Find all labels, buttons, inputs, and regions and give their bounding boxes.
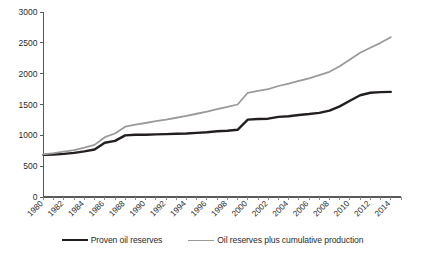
x-tick-label-group: 1990 <box>128 199 148 219</box>
x-tick-label-group: 2010 <box>332 199 352 219</box>
x-tick-label-group: 2004 <box>271 199 291 219</box>
x-tick-label-group: 1984 <box>67 199 87 219</box>
x-tick-label: 1996 <box>189 199 209 219</box>
series-line-1 <box>44 37 391 154</box>
line-chart-plot: 0500100015002000250030001980198219841986… <box>0 0 425 254</box>
chart-legend: Proven oil reservesOil reserves plus cum… <box>0 229 425 251</box>
y-tick-label: 1000 <box>19 130 38 140</box>
x-tick-label: 2010 <box>332 199 352 219</box>
x-tick-label-group: 2006 <box>291 199 311 219</box>
legend-label: Oil reserves plus cumulative production <box>217 235 363 245</box>
x-tick-label: 1984 <box>67 199 87 219</box>
x-tick-label: 1982 <box>46 199 66 219</box>
x-tick-label-group: 2012 <box>353 199 373 219</box>
x-tick-label: 1980 <box>26 199 46 219</box>
x-tick-label-group: 2014 <box>373 199 393 219</box>
x-tick-label: 2002 <box>250 199 270 219</box>
x-tick-label: 2014 <box>373 199 393 219</box>
x-tick-label-group: 1992 <box>148 199 168 219</box>
x-tick-label: 1998 <box>210 199 230 219</box>
x-tick-label: 1990 <box>128 199 148 219</box>
x-tick-label-group: 1998 <box>210 199 230 219</box>
x-tick-label: 1992 <box>148 199 168 219</box>
x-tick-label: 2000 <box>230 199 250 219</box>
x-tick-label: 2012 <box>353 199 373 219</box>
x-tick-label-group: 1982 <box>46 199 66 219</box>
series-line-0 <box>44 92 391 155</box>
legend-entry-0[interactable]: Proven oil reserves <box>62 235 163 245</box>
x-tick-label-group: 2000 <box>230 199 250 219</box>
legend-label: Proven oil reserves <box>91 235 163 245</box>
legend-entry-1[interactable]: Oil reserves plus cumulative production <box>188 235 363 245</box>
x-tick-label: 2006 <box>291 199 311 219</box>
legend-line-swatch-icon <box>62 239 88 241</box>
x-tick-label-group: 1994 <box>169 199 189 219</box>
y-tick-label: 500 <box>23 161 37 171</box>
y-tick-label: 2500 <box>19 38 38 48</box>
x-tick-label-group: 2002 <box>250 199 270 219</box>
x-tick-label: 2004 <box>271 199 291 219</box>
y-tick-label: 2000 <box>19 69 38 79</box>
x-tick-label: 1994 <box>169 199 189 219</box>
x-tick-label-group: 1988 <box>107 199 127 219</box>
y-tick-label: 1500 <box>19 100 38 110</box>
legend-line-swatch-icon <box>188 240 214 241</box>
x-tick-label-group: 1996 <box>189 199 209 219</box>
x-tick-label-group: 1986 <box>87 199 107 219</box>
x-tick-label: 1988 <box>107 199 127 219</box>
chart-figure: 0500100015002000250030001980198219841986… <box>0 0 425 254</box>
x-tick-label-group: 2008 <box>312 199 332 219</box>
x-tick-label: 1986 <box>87 199 107 219</box>
x-tick-label: 2008 <box>312 199 332 219</box>
y-tick-label: 3000 <box>19 7 38 17</box>
x-tick-label-group: 1980 <box>26 199 46 219</box>
